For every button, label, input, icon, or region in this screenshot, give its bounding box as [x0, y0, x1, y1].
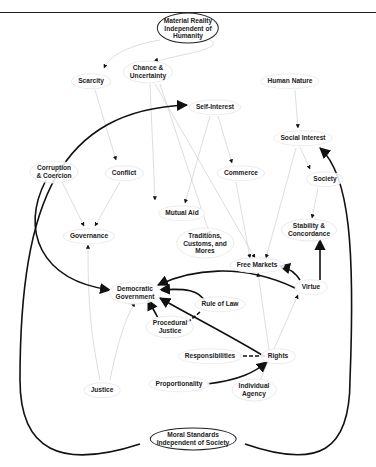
node-democratic-government: Democratic Government [109, 281, 162, 304]
node-self-interest: Self-Interest [189, 99, 241, 115]
node-human-nature: Human Nature [260, 73, 319, 89]
node-moral-standards: Moral Standards Independent of Society [150, 427, 237, 450]
node-virtue: Virtue [295, 279, 328, 295]
node-social-interest: Social Interest [273, 130, 332, 146]
node-proportionality: Proportionality [149, 376, 210, 392]
node-rights: Rights [261, 348, 296, 364]
node-society: Society [306, 171, 343, 187]
node-scarcity: Scarcity [71, 73, 111, 89]
node-rule-of-law: Rule of Law [195, 296, 246, 312]
node-responsibilities: Responsibilities [178, 348, 243, 364]
node-traditions: Traditions, Customs, and Mores [176, 228, 234, 259]
node-governance: Governance [63, 228, 115, 244]
node-mutual-aid: Mutual Aid [158, 205, 205, 221]
node-free-markets: Free Markets [230, 257, 285, 273]
node-material-reality: Material Reality Independent of Humanity [157, 13, 219, 44]
node-commerce: Commerce [217, 165, 265, 181]
node-conflict: Conflict [105, 165, 144, 181]
node-justice: Justice [84, 382, 121, 398]
node-individual-agency: Individual Agency [232, 378, 277, 401]
